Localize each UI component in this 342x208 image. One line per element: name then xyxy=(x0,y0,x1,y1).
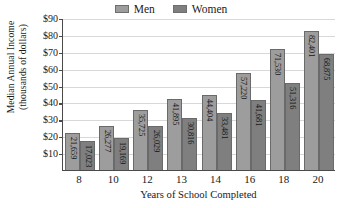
bar: 35,725 xyxy=(133,110,148,170)
bar: 51,316 xyxy=(285,83,300,170)
bar: 19,169 xyxy=(114,138,129,170)
bar: 68,875 xyxy=(319,54,334,170)
bar: 41,895 xyxy=(167,99,182,170)
x-axis-tick-label: 8 xyxy=(76,173,82,185)
bar-group: 44,40433,481 xyxy=(200,19,234,170)
legend-swatch-icon xyxy=(115,5,129,13)
y-axis-tick-label: $30 xyxy=(26,115,58,125)
x-axis-tick-label: 12 xyxy=(142,173,153,185)
bar-group: 71,53051,316 xyxy=(268,19,302,170)
bar: 30,816 xyxy=(182,118,197,170)
bar-group: 82,40168,875 xyxy=(302,19,336,170)
y-axis-tick-labels: $10$20$30$40$50$60$70$80$90 xyxy=(26,14,58,172)
legend-label: Women xyxy=(192,4,227,15)
bar: 17,023 xyxy=(80,141,95,170)
bar-value-label: 82,401 xyxy=(307,35,315,57)
y-axis-tick-label: $10 xyxy=(26,149,58,159)
bar: 57,220 xyxy=(236,73,251,170)
bar-value-label: 30,816 xyxy=(186,122,194,144)
bar-value-label: 35,725 xyxy=(137,114,145,136)
bar-value-label: 33,481 xyxy=(220,117,228,139)
bar: 44,404 xyxy=(202,95,217,170)
x-axis-title: Years of School Completed xyxy=(62,189,335,201)
legend-entry: Women xyxy=(173,4,227,15)
bar-value-label: 19,169 xyxy=(118,142,126,164)
bar-group: 35,72526,029 xyxy=(131,19,165,170)
x-axis-tick-label: 20 xyxy=(312,173,323,185)
bar-group: 26,27719,169 xyxy=(97,19,131,170)
y-axis-tick-label: $70 xyxy=(26,48,58,58)
bar-group: 57,22041,681 xyxy=(234,19,268,170)
y-axis-tick-label: $40 xyxy=(26,98,58,108)
x-axis-tick-label: 16 xyxy=(244,173,255,185)
x-axis-tick-label: 18 xyxy=(278,173,289,185)
bar: 71,530 xyxy=(270,49,285,170)
bar: 21,659 xyxy=(65,133,80,170)
bar-value-label: 71,530 xyxy=(273,53,281,75)
x-axis-tick-label: 14 xyxy=(210,173,221,185)
bar-value-label: 44,404 xyxy=(205,99,213,121)
bar-value-label: 41,681 xyxy=(254,104,262,126)
bar-value-label: 51,316 xyxy=(288,87,296,109)
legend-entry: Men xyxy=(115,4,155,15)
bar-value-label: 26,029 xyxy=(152,130,160,152)
y-axis-tick-label: $90 xyxy=(26,14,58,24)
bar-value-label: 26,277 xyxy=(103,130,111,152)
bar-value-label: 57,220 xyxy=(239,77,247,99)
bar: 82,401 xyxy=(304,31,319,170)
x-axis-tick-labels: 810121314161820 xyxy=(62,173,335,187)
y-axis-title-line1: Median Annual Income xyxy=(5,0,17,143)
y-axis-tick-label: $60 xyxy=(26,65,58,75)
bar: 26,029 xyxy=(148,126,163,170)
bar: 26,277 xyxy=(99,126,114,170)
x-axis-tick-label: 13 xyxy=(176,173,187,185)
bar-value-label: 41,895 xyxy=(171,103,179,125)
median-income-bar-chart: MenWomen Median Annual Income (thousands… xyxy=(0,0,342,208)
bar-value-label: 21,659 xyxy=(68,137,76,159)
bar-group: 41,89530,816 xyxy=(165,19,199,170)
legend-swatch-icon xyxy=(173,5,187,13)
y-axis-tick-label: $20 xyxy=(26,132,58,142)
bar: 33,481 xyxy=(217,113,232,170)
bar: 41,681 xyxy=(251,100,266,170)
bar-value-label: 68,875 xyxy=(322,58,330,80)
y-axis-tick-label: $80 xyxy=(26,31,58,41)
bars-layer: 21,65917,02326,27719,16935,72526,02941,8… xyxy=(63,19,335,170)
plot-area: 21,65917,02326,27719,16935,72526,02941,8… xyxy=(62,19,335,171)
bar-group: 21,65917,023 xyxy=(63,19,97,170)
y-axis-tick-label: $50 xyxy=(26,82,58,92)
legend-label: Men xyxy=(134,4,155,15)
bar-value-label: 17,023 xyxy=(83,145,91,167)
x-axis-tick-label: 10 xyxy=(108,173,119,185)
